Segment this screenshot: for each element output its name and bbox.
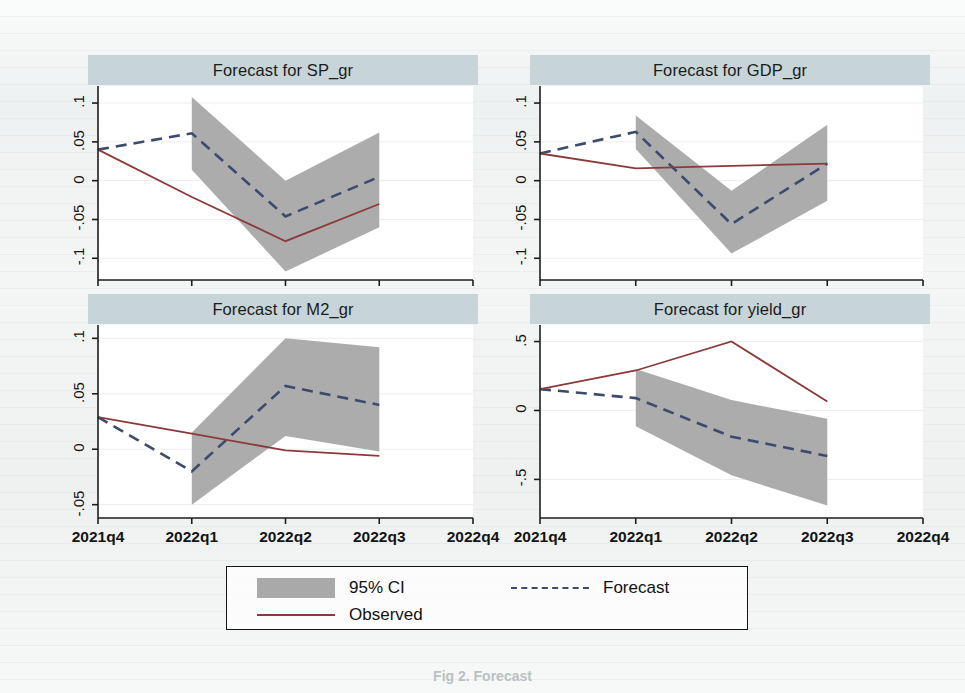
x-tick-label: 2022q1: [147, 528, 237, 546]
x-tick-label: 2021q4: [53, 528, 143, 546]
forecast-figure: Forecast for SP_gr Forecast for GDP_gr F…: [0, 0, 965, 693]
y-tick-label: 0: [70, 418, 87, 478]
x-tick-label: 2021q4: [495, 528, 585, 546]
y-tick-label: 0: [512, 379, 529, 439]
x-tick-label: 2022q3: [782, 528, 872, 546]
x-tick-label: 2022q2: [687, 528, 777, 546]
y-tick-label: .1: [70, 307, 87, 367]
y-tick-label: .05: [70, 362, 87, 422]
x-tick-label: 2022q2: [241, 528, 331, 546]
y-tick-label: -.05: [70, 473, 87, 533]
observed-line-swatch: [257, 614, 335, 616]
legend-item-ci: 95% CI: [257, 578, 405, 598]
forecast-line-swatch: [511, 587, 589, 589]
x-tick-label: 2022q4: [878, 528, 965, 546]
x-tick-label: 2022q3: [334, 528, 424, 546]
x-tick-label: 2022q1: [591, 528, 681, 546]
figure-caption: Fig 2. Forecast: [0, 668, 965, 684]
legend-label-forecast: Forecast: [603, 578, 669, 598]
y-tick-label: -.5: [512, 448, 529, 508]
legend-label-ci: 95% CI: [349, 578, 405, 598]
y-tick-label: -.1: [512, 227, 529, 287]
legend: 95% CI Forecast Observed: [226, 566, 748, 630]
y-tick-label: -.1: [70, 227, 87, 287]
ci-band-swatch: [257, 578, 335, 598]
y-tick-label: .5: [512, 310, 529, 370]
legend-label-observed: Observed: [349, 605, 423, 625]
legend-item-observed: Observed: [257, 605, 423, 625]
legend-item-forecast: Forecast: [511, 578, 669, 598]
